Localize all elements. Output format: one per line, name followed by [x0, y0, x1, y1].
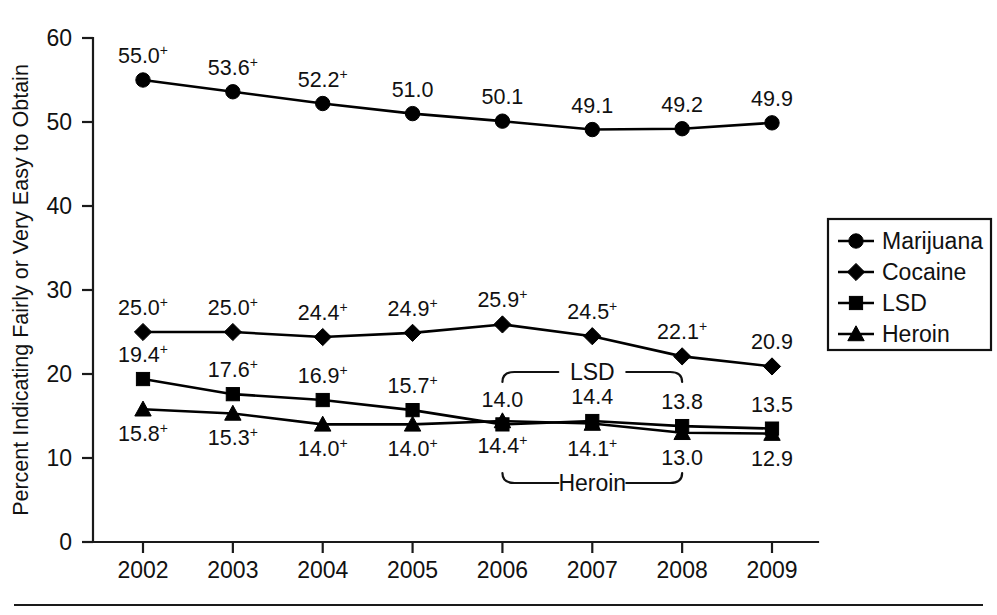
- circle-marker: [675, 122, 689, 136]
- bracket-right: [626, 372, 682, 382]
- x-tick-label: 2009: [746, 557, 797, 583]
- y-tick-label: 40: [46, 193, 72, 219]
- square-marker: [316, 393, 329, 406]
- square-marker: [136, 372, 149, 385]
- data-label: 13.0: [661, 446, 703, 470]
- chart-legend[interactable]: MarijuanaCocaineLSDHeroin: [828, 219, 991, 350]
- x-tick-label: 2008: [657, 557, 708, 583]
- data-label: 22.1+: [657, 318, 707, 344]
- data-label: 13.8: [661, 390, 703, 414]
- data-label: 14.0: [481, 388, 523, 412]
- data-label: 55.0+: [118, 42, 168, 68]
- x-tick-label: 2007: [567, 557, 618, 583]
- data-label: 20.9: [751, 330, 793, 354]
- data-label: 25.9+: [477, 286, 527, 312]
- legend-label: Marijuana: [882, 228, 983, 254]
- bracket-label: LSD: [570, 359, 615, 385]
- diamond-marker: [584, 328, 601, 345]
- figure-container: 0102030405060200220032004200520062007200…: [0, 0, 997, 615]
- diamond-marker: [763, 358, 780, 375]
- y-tick-label: 10: [46, 445, 72, 471]
- data-label: 15.7+: [388, 372, 438, 398]
- series-lines: [134, 73, 780, 441]
- data-label: 14.0+: [388, 435, 438, 461]
- x-tick-label: 2004: [297, 557, 348, 583]
- data-label: 15.8+: [118, 420, 168, 446]
- diamond-marker: [224, 323, 241, 340]
- x-tick-label: 2003: [207, 557, 258, 583]
- y-tick-label: 30: [46, 277, 72, 303]
- circle-marker: [765, 116, 779, 130]
- data-label: 16.9+: [298, 362, 348, 388]
- data-label: 52.2+: [298, 66, 348, 92]
- point-labels: 55.0+53.6+52.2+51.050.149.149.249.925.0+…: [118, 42, 793, 471]
- legend-label: LSD: [882, 290, 927, 316]
- y-axis-title: Percent Indicating Fairly or Very Easy t…: [9, 64, 33, 516]
- y-tick-label: 20: [46, 361, 72, 387]
- circle-marker: [136, 73, 150, 87]
- circle-marker: [226, 85, 240, 99]
- data-label: 12.9: [751, 447, 793, 471]
- data-label: 14.1+: [567, 435, 617, 461]
- data-label: 49.9: [751, 87, 793, 111]
- data-label: 19.4+: [118, 341, 168, 367]
- data-label: 14.0+: [298, 435, 348, 461]
- legend-label: Cocaine: [882, 259, 966, 285]
- diamond-marker: [134, 323, 151, 340]
- y-tick-label: 0: [59, 529, 72, 555]
- data-label: 25.0+: [208, 294, 258, 320]
- circle-marker: [316, 96, 330, 110]
- data-label: 50.1: [481, 85, 523, 109]
- circle-marker: [405, 106, 419, 120]
- circle-marker: [585, 122, 599, 136]
- data-label: 17.6+: [208, 356, 258, 382]
- diamond-marker: [674, 348, 691, 365]
- bracket-left: [502, 473, 558, 483]
- legend-label: Heroin: [882, 321, 950, 347]
- data-label: 24.5+: [567, 298, 617, 324]
- data-label: 24.4+: [298, 299, 348, 325]
- y-tick-label: 60: [46, 25, 72, 51]
- diamond-marker: [314, 328, 331, 345]
- data-label: 13.5: [751, 393, 793, 417]
- line-chart: 0102030405060200220032004200520062007200…: [0, 0, 997, 615]
- bracket-right: [626, 473, 682, 483]
- data-label: 53.6+: [208, 54, 258, 80]
- data-label: 14.4+: [477, 432, 527, 458]
- bracket-left: [502, 372, 558, 382]
- x-tick-label: 2002: [117, 557, 168, 583]
- data-label: 14.4: [571, 385, 613, 409]
- bracket-lsd: LSD: [502, 359, 682, 385]
- data-label: 15.3+: [208, 424, 258, 450]
- diamond-marker: [404, 324, 421, 341]
- square-marker: [226, 388, 239, 401]
- data-label: 25.0+: [118, 294, 168, 320]
- circle-marker: [495, 114, 509, 128]
- x-tick-label: 2005: [387, 557, 438, 583]
- bracket-heroin: Heroin: [502, 470, 682, 496]
- x-tick-label: 2006: [477, 557, 528, 583]
- square-marker: [406, 404, 419, 417]
- diamond-marker: [494, 316, 511, 333]
- data-label: 24.9+: [388, 295, 438, 321]
- circle-marker: [849, 234, 863, 248]
- data-label: 51.0: [392, 78, 434, 102]
- y-tick-label: 50: [46, 109, 72, 135]
- square-marker: [849, 296, 862, 309]
- bracket-label: Heroin: [558, 470, 626, 496]
- data-label: 49.1: [571, 94, 613, 118]
- data-label: 49.2: [661, 93, 703, 117]
